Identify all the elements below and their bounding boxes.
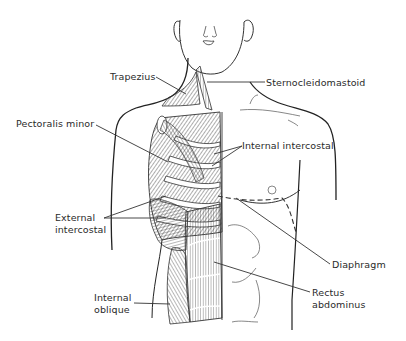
label-pectoralis-minor: Pectoralis minor [16, 118, 94, 130]
leader-rectus-abdominus [214, 262, 310, 292]
leader-internal-oblique [134, 303, 170, 304]
label-internal-oblique: Internaloblique [94, 292, 131, 316]
label-external-intercostal: Externalintercostal [55, 212, 106, 236]
chest-contours [228, 95, 300, 322]
head [174, 20, 253, 74]
label-sternocleidomastoid: Sternocleidomastoid [266, 77, 366, 89]
label-internal-intercostal: Internal intercostal [242, 140, 334, 152]
label-trapezius: Trapezius [110, 71, 156, 83]
trapezius-muscle [162, 72, 200, 106]
label-rectus-abdominus: Rectusabdominus [312, 287, 365, 311]
diaphragm-outline [218, 196, 296, 232]
label-diaphragm: Diaphragm [332, 259, 386, 271]
